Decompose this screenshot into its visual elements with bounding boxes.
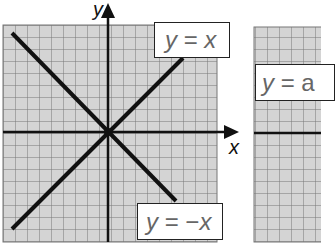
label-op: =	[274, 69, 301, 96]
right-grid	[254, 27, 321, 242]
label-y-equals-neg-x: y = −x	[137, 203, 223, 240]
label-y-equals-x: y = x	[154, 22, 230, 58]
label-rhs: x	[199, 208, 211, 235]
label-op: =	[177, 26, 204, 53]
label-var: y	[165, 26, 177, 53]
y-axis-label: y	[93, 0, 103, 21]
label-y-equals-a: y = a	[255, 64, 335, 101]
label-rhs: x	[204, 26, 216, 53]
label-rhs: a	[301, 69, 314, 96]
y-axis-arrow	[101, 3, 115, 18]
label-var: y	[262, 69, 274, 96]
x-axis-label: x	[229, 136, 239, 159]
label-var: y	[146, 208, 158, 235]
label-op: = −	[158, 208, 199, 235]
